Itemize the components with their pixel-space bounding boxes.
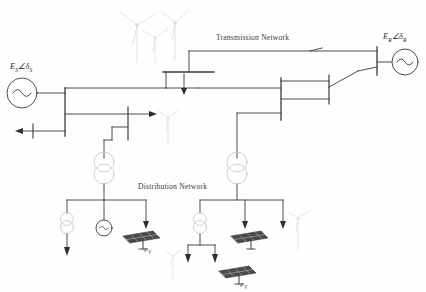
feeder-left-distribution — [104, 127, 128, 158]
load-arrow-dist-right-4 — [280, 221, 286, 229]
line-diagonal-right — [329, 71, 358, 87]
load-arrow-transmission-tap — [181, 74, 187, 95]
source-right-angle-symbol: ∠δ — [392, 32, 403, 41]
transmission-line-pair — [281, 75, 329, 104]
pv-label-left: PV — [144, 247, 151, 255]
load-arrow-dist-left-1 — [64, 247, 70, 256]
generator-right — [392, 49, 418, 75]
wind-turbine-top-3 — [162, 11, 188, 60]
distribution-network-label: Distribution Network — [138, 182, 207, 191]
power-system-single-line-diagram — [0, 0, 426, 292]
diagram-canvas: Transmission Network Distribution Networ… — [0, 0, 426, 292]
transmission-network-label: Transmission Network — [216, 33, 289, 42]
load-arrow-mid-right — [65, 111, 157, 117]
wind-turbine-bottom — [165, 250, 181, 280]
wind-turbine-right-low — [287, 211, 309, 250]
source-left-label: ES∠δS — [10, 61, 32, 73]
wind-turbine-mid — [158, 110, 178, 145]
generator-left — [7, 78, 37, 108]
distribution-bus-right — [200, 200, 283, 222]
load-arrow-dist-left-2 — [143, 221, 149, 229]
source-right-label: ER∠δR — [383, 31, 407, 43]
solar-panel-left — [123, 231, 160, 249]
wind-turbine-top-1 — [120, 12, 155, 62]
solar-panel-right-2 — [219, 266, 256, 284]
load-arrow-dist-right-2 — [212, 254, 218, 263]
sub-bus-right-lowest — [188, 234, 215, 255]
load-arrow-left-out — [15, 124, 65, 138]
solar-panel-right-1 — [231, 231, 268, 249]
bus-mid-upper — [163, 72, 214, 88]
generator-distribution-left — [96, 220, 112, 236]
line-diagonal-right-2 — [358, 67, 377, 71]
wind-turbine-top-2 — [142, 29, 168, 64]
pv-label-right-subscript: V — [244, 284, 248, 290]
load-arrow-dist-right-3 — [242, 221, 248, 229]
pv-label-right: PV — [240, 282, 247, 290]
source-right-subscript-2: R — [403, 37, 407, 43]
transformer-feeder-left — [61, 213, 74, 234]
pv-label-left-subscript: V — [148, 249, 152, 255]
load-arrow-dist-right-1 — [185, 254, 191, 263]
source-left-angle-symbol: ∠δ — [18, 62, 29, 71]
transmission-line-top — [189, 48, 377, 72]
distribution-bus-left — [67, 200, 146, 222]
source-left-subscript-2: S — [29, 67, 32, 73]
transformer-feeder-right — [194, 213, 207, 234]
feeder-right-distribution — [237, 113, 281, 158]
